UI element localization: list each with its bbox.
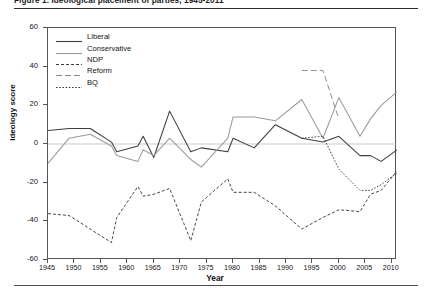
x-tick-mark	[126, 259, 127, 263]
figure-rule-bottom	[14, 285, 418, 286]
legend-label: BQ	[87, 78, 98, 87]
y-tick-mark	[43, 66, 47, 67]
x-tick-mark	[259, 259, 260, 263]
legend-swatch-conservative-icon	[56, 44, 82, 53]
x-tick-mark	[73, 259, 74, 263]
y-tick-label: -40	[12, 216, 38, 224]
legend-label: Liberal	[87, 32, 110, 41]
y-tick-mark	[43, 104, 47, 105]
x-tick-mark	[391, 259, 392, 263]
x-axis-label: Year	[0, 273, 430, 283]
legend-swatch-liberal-icon	[56, 32, 82, 41]
legend-swatch-reform-icon	[56, 66, 82, 75]
legend-item-conservative[interactable]: Conservative	[56, 42, 131, 53]
y-tick-mark	[43, 220, 47, 221]
y-tick-label: 40	[12, 62, 38, 70]
x-tick-label: 2010	[376, 264, 406, 272]
legend-swatch-ndp-icon	[56, 55, 82, 64]
series-line-ndp	[48, 171, 397, 243]
legend-item-ndp[interactable]: NDP	[56, 54, 131, 65]
chart-legend: LiberalConservativeNDPReformBQ	[56, 31, 131, 88]
legend-label: Conservative	[87, 44, 131, 53]
series-line-liberal	[48, 111, 397, 161]
legend-label: Reform	[87, 66, 112, 75]
x-tick-mark	[47, 259, 48, 263]
legend-label: NDP	[87, 55, 103, 64]
legend-swatch-bq-icon	[56, 78, 82, 87]
legend-item-reform[interactable]: Reform	[56, 65, 131, 76]
x-tick-mark	[100, 259, 101, 263]
legend-item-liberal[interactable]: Liberal	[56, 31, 131, 42]
x-tick-mark	[153, 259, 154, 263]
legend-item-bq[interactable]: BQ	[56, 77, 131, 88]
y-tick-label: -20	[12, 178, 38, 186]
x-tick-mark	[338, 259, 339, 263]
x-tick-mark	[232, 259, 233, 263]
x-tick-mark	[364, 259, 365, 263]
series-line-conservative	[48, 92, 397, 167]
title-rule-top	[14, 8, 418, 9]
y-tick-mark	[43, 182, 47, 183]
y-axis-label: Ideology score	[8, 84, 17, 140]
y-tick-label: 60	[12, 23, 38, 31]
figure-title: Figure 1. Ideological placement of parti…	[14, 0, 414, 5]
x-tick-mark	[206, 259, 207, 263]
x-tick-mark	[179, 259, 180, 263]
y-tick-mark	[43, 27, 47, 28]
y-tick-mark	[43, 143, 47, 144]
figure-container: Figure 1. Ideological placement of parti…	[0, 0, 430, 298]
x-tick-mark	[311, 259, 312, 263]
y-tick-label: -60	[12, 255, 38, 263]
x-tick-mark	[285, 259, 286, 263]
